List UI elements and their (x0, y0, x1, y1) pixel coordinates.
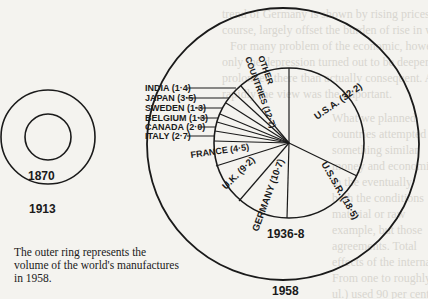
figure: trend of Germany is shown by rising pric… (0, 0, 428, 299)
circle-1870 (25, 114, 71, 160)
figure-caption: The outer ring represents the volume of … (14, 246, 179, 285)
label-1913: 1913 (29, 202, 56, 216)
label-italy: ITALY (2·7) (145, 131, 191, 141)
label-france: FRANCE (4·5) (190, 142, 250, 160)
label-india: INDIA (1·4) (145, 83, 191, 93)
label-1870: 1870 (28, 169, 55, 183)
label-ussr: U.S.S.R. (18·5) (319, 160, 361, 222)
label-1958: 1958 (272, 284, 299, 298)
label-1936-8: 1936-8 (267, 227, 305, 241)
label-japan: JAPAN (3·5) (145, 93, 196, 103)
label-sweden: SWEDEN (1·3) (145, 103, 206, 113)
